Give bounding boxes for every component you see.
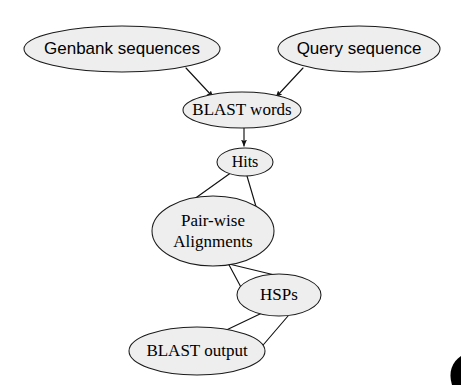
node-genbank-sequences-label: Genbank sequences bbox=[44, 39, 200, 58]
edge-genbank-to-blast-words bbox=[186, 68, 213, 97]
node-query-sequence[interactable]: Query sequence bbox=[278, 26, 440, 72]
page-edge-artifact bbox=[450, 356, 461, 385]
node-blast-output-label: BLAST output bbox=[146, 341, 248, 360]
node-query-sequence-label: Query sequence bbox=[297, 39, 422, 58]
diagram-canvas: Genbank sequences Query sequence BLAST w… bbox=[0, 0, 461, 385]
node-hits-label: Hits bbox=[232, 153, 259, 170]
node-hsps-label: HSPs bbox=[260, 285, 298, 304]
node-hsps[interactable]: HSPs bbox=[237, 274, 321, 316]
dark-crescent-artifact bbox=[450, 356, 461, 385]
node-blast-output[interactable]: BLAST output bbox=[129, 327, 265, 375]
node-genbank-sequences[interactable]: Genbank sequences bbox=[24, 26, 220, 72]
edge-query-to-blast-words bbox=[276, 68, 303, 97]
node-pairwise-alignments-label-line1: Pair-wise bbox=[181, 211, 245, 230]
node-blast-words[interactable]: BLAST words bbox=[183, 92, 301, 128]
node-blast-words-label: BLAST words bbox=[192, 100, 291, 119]
node-pairwise-alignments[interactable]: Pair-wise Alignments bbox=[152, 196, 274, 266]
blast-flow-diagram: Genbank sequences Query sequence BLAST w… bbox=[0, 0, 461, 385]
node-pairwise-alignments-label-line2: Alignments bbox=[173, 232, 252, 251]
node-hits[interactable]: Hits bbox=[217, 148, 273, 176]
node-layer: Genbank sequences Query sequence BLAST w… bbox=[24, 26, 440, 375]
